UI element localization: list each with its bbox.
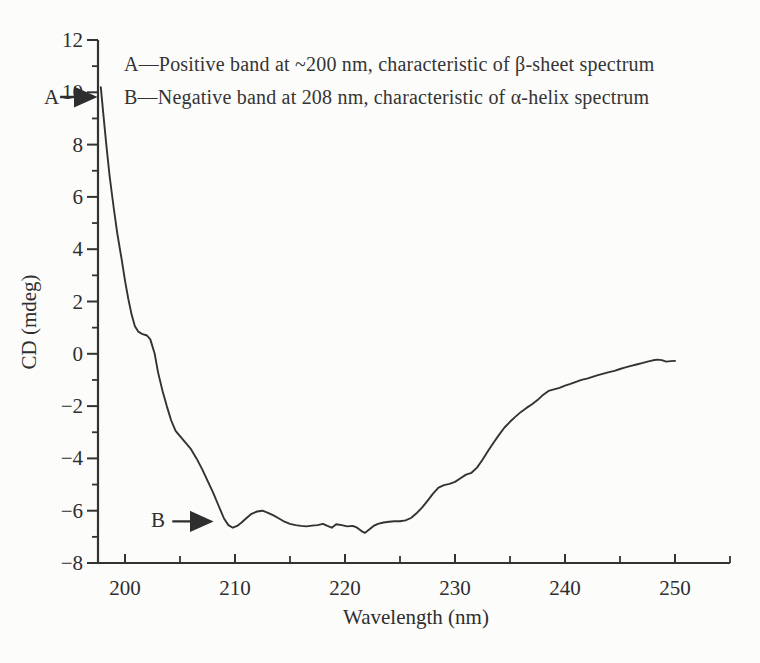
y-tick-label: 0	[72, 342, 83, 366]
y-tick-label: 6	[72, 185, 83, 209]
cd-spectrum-line	[101, 87, 675, 533]
y-tick-label: 4	[72, 237, 83, 261]
x-tick-label: 220	[329, 576, 361, 600]
cd-spectrum-curve	[101, 87, 675, 533]
axis-spines	[98, 40, 730, 563]
x-tick-label: 200	[109, 576, 141, 600]
y-tick-label: 12	[62, 28, 83, 52]
x-axis-label: Wavelength (nm)	[343, 605, 489, 629]
y-tick-label: −2	[61, 394, 83, 418]
x-tick-label: 250	[659, 576, 691, 600]
annotation-marker-a: A	[44, 85, 59, 110]
y-tick-label: −8	[61, 551, 83, 575]
annotation-text-alpha-helix: B—Negative band at 208 nm, characteristi…	[124, 86, 649, 109]
y-tick-label: 10	[62, 80, 83, 104]
cd-spectrum-figure: −8−6−4−2024681012200210220230240250 CD (…	[0, 0, 760, 663]
x-tick-label: 240	[549, 576, 581, 600]
y-axis-label: CD (mdeg)	[17, 274, 41, 369]
annotation-text-beta-sheet: A—Positive band at ~200 nm, characterist…	[124, 53, 654, 76]
x-tick-label: 210	[219, 576, 251, 600]
axis-spine	[98, 40, 730, 563]
annotation-marker-b: B	[151, 508, 165, 533]
y-tick-label: 8	[72, 133, 83, 157]
axis-ticks	[87, 40, 730, 563]
y-tick-label: −6	[61, 499, 83, 523]
x-tick-label: 230	[439, 576, 471, 600]
y-tick-label: 2	[72, 290, 83, 314]
y-tick-label: −4	[61, 446, 84, 470]
